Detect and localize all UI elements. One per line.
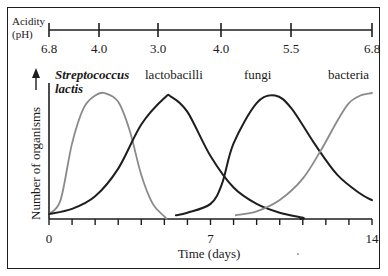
ph-tick-label: 6.8 (364, 41, 380, 56)
x-axis-label: Time (days) (178, 246, 241, 261)
ph-tick-label: 4.0 (91, 41, 107, 56)
ph-tick-label: 4.0 (213, 41, 229, 56)
label-streptococcus: Streptococcus (55, 67, 129, 82)
succession-chart: Acidity (pH) 6.84.03.04.05.56.8 Number o… (0, 0, 388, 276)
y-axis-label: Number of organisms (28, 107, 43, 220)
label-bacteria: bacteria (328, 67, 369, 82)
ph-tick-label: 3.0 (150, 41, 166, 56)
ph-axis: Acidity (pH) 6.84.03.04.05.56.8 (12, 15, 380, 56)
curves (49, 93, 372, 219)
label-fungi: fungi (244, 67, 272, 82)
speck (297, 253, 299, 255)
ph-axis-label-line1: Acidity (12, 15, 45, 27)
label-lactobacilli: lactobacilli (145, 67, 203, 82)
ph-axis-label-line2: (pH) (12, 28, 33, 41)
series-labels: Streptococcus lactis lactobacilli fungi … (55, 67, 369, 96)
x-tick-label: 7 (207, 231, 214, 246)
x-tick-label: 14 (366, 231, 380, 246)
x-tick-label: 0 (46, 231, 53, 246)
ph-tick-label: 5.5 (283, 41, 299, 56)
curve-streptococcus-lactis (49, 93, 167, 219)
curve-bacteria (236, 93, 372, 215)
y-axis: Number of organisms (28, 68, 49, 220)
label-lactis: lactis (55, 81, 83, 96)
curve-lactobacilli (49, 95, 304, 219)
x-axis: 0714 Time (days) (46, 219, 379, 261)
ph-tick-label: 6.8 (41, 41, 57, 56)
